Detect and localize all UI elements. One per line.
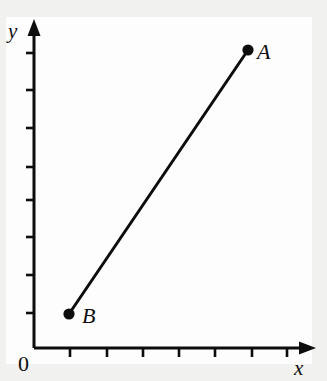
x-axis-arrowhead xyxy=(299,342,316,355)
segment-ab xyxy=(69,50,248,314)
origin-label: 0 xyxy=(18,353,29,375)
y-axis-arrowhead xyxy=(28,19,41,36)
point-b-marker xyxy=(63,308,74,319)
plot-svg xyxy=(0,0,327,381)
figure-canvas: y x 0 A B xyxy=(0,0,327,381)
point-b-label: B xyxy=(82,305,95,327)
point-a-marker xyxy=(242,44,253,55)
point-a-label: A xyxy=(257,41,270,63)
y-axis-label: y xyxy=(8,21,17,42)
x-axis-label: x xyxy=(294,358,303,379)
